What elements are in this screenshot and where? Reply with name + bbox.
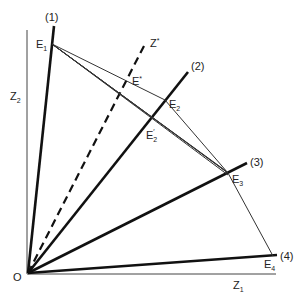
segment-e1-e2: [52, 44, 165, 100]
z2-axis-label: Z2: [10, 90, 21, 104]
ray-z-star-dashed: [28, 42, 146, 273]
ray-4-label: (4): [280, 250, 293, 262]
z-star-label: Z*: [150, 37, 160, 49]
point-e2-label: E2: [169, 98, 180, 112]
segment-e3-e4: [228, 173, 273, 256]
ray-4: [28, 255, 277, 273]
point-e3-label: E3: [232, 173, 243, 187]
point-estar-label: E*: [132, 75, 142, 87]
ray-2: [28, 72, 188, 273]
diagram-canvas: (1) (2) (3) (4) Z* E1 E* E2 E2′ E3 E4 Z2…: [0, 0, 305, 302]
z1-axis-label: Z1: [233, 279, 244, 293]
ray-3: [28, 163, 247, 273]
ray-1-label: (1): [45, 11, 58, 23]
ray-1: [28, 26, 54, 273]
point-e1-label: E1: [36, 38, 47, 52]
point-e4-label: E4: [264, 258, 275, 272]
efficiency-frontier-diagram: (1) (2) (3) (4) Z* E1 E* E2 E2′ E3 E4 Z2…: [0, 0, 305, 302]
ray-2-label: (2): [191, 60, 204, 72]
origin-label: O: [13, 271, 22, 283]
ray-3-label: (3): [250, 156, 263, 168]
point-e2prime-label: E2′: [146, 128, 157, 143]
segment-e2-e3: [165, 100, 228, 173]
